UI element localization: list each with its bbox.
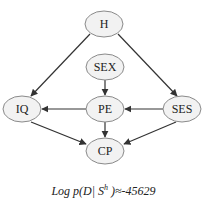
- edge-h-iq: [31, 34, 90, 96]
- node-label-sex: SEX: [94, 60, 117, 74]
- edges: [31, 34, 177, 144]
- edge-ses-cp: [124, 122, 176, 144]
- node-ses: SES: [163, 96, 201, 122]
- caption-suffix: )≈-45629: [108, 184, 156, 198]
- log-likelihood-caption: Log p(D| Sh )≈-45629: [0, 183, 207, 199]
- node-label-iq: IQ: [16, 102, 29, 116]
- node-sex: SEX: [86, 54, 124, 80]
- edge-iq-cp: [31, 122, 86, 144]
- node-label-ses: SES: [172, 102, 193, 116]
- node-h: H: [85, 11, 123, 37]
- node-label-pe: PE: [98, 102, 112, 116]
- caption-prefix: Log p(D| S: [51, 184, 104, 198]
- edge-h-ses: [118, 34, 177, 96]
- node-iq: IQ: [3, 96, 41, 122]
- node-cp: CP: [86, 138, 124, 164]
- node-label-h: H: [100, 17, 109, 31]
- node-pe: PE: [86, 96, 124, 122]
- node-label-cp: CP: [98, 144, 113, 158]
